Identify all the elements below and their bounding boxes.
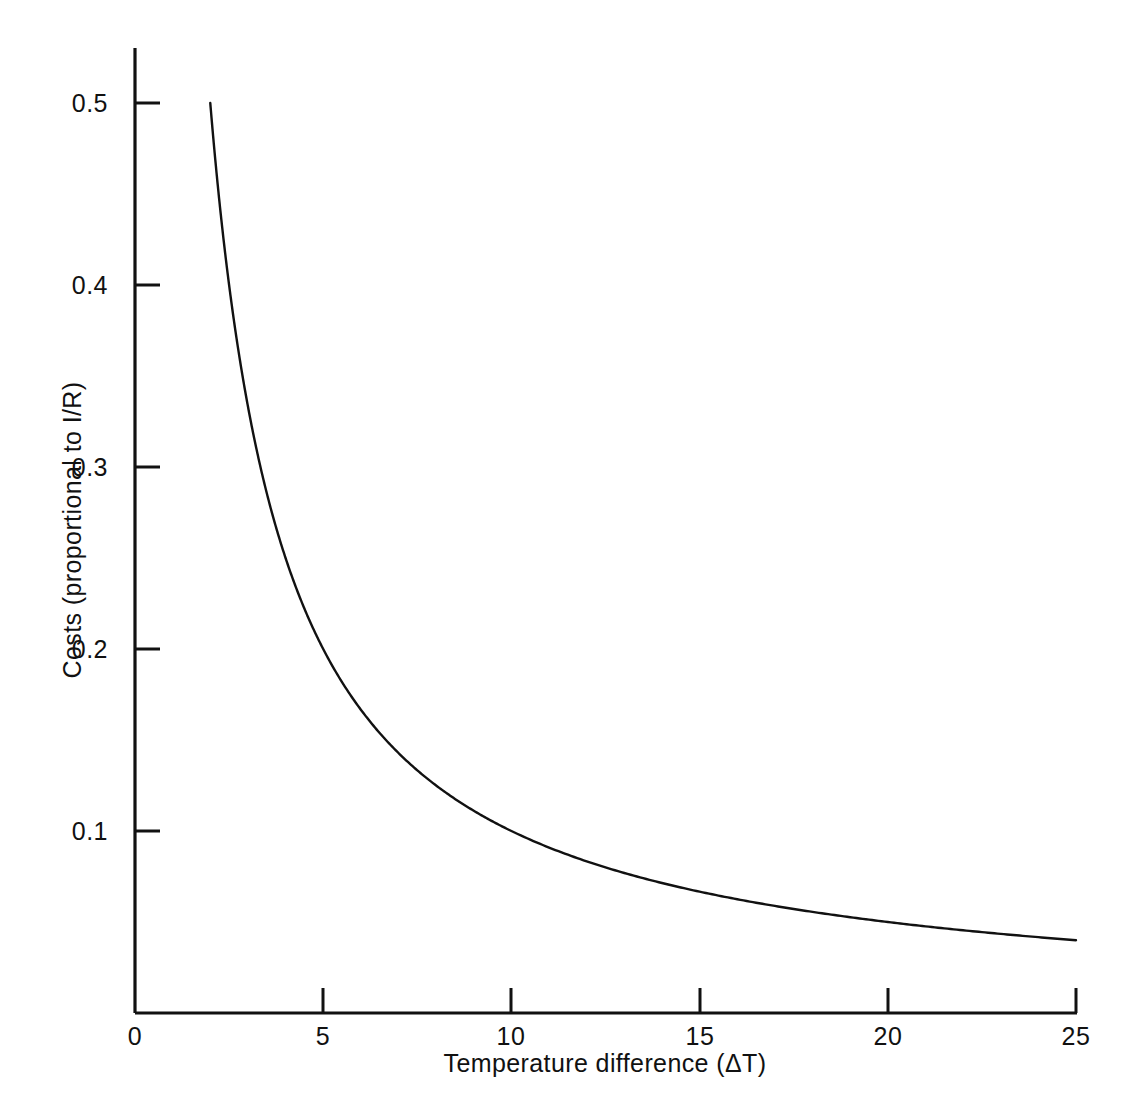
x-tick-label-25: 25 [1062,1022,1091,1051]
cost-curve [210,103,1076,940]
x-axis-ticks [323,988,1076,1013]
y-axis-ticks [135,103,160,831]
x-axis-title: Temperature difference (ΔT) [444,1049,767,1078]
y-tick-label-0.1: 0.1 [28,817,108,846]
x-tick-label-10: 10 [497,1022,526,1051]
chart-figure: 0.5 0.4 0.3 0.2 0.1 0 5 10 15 20 25 Temp… [0,0,1146,1118]
y-axis-title: Costs (proportional to I/R) [58,381,87,678]
x-tick-label-15: 15 [686,1022,715,1051]
y-tick-label-0.4: 0.4 [28,271,108,300]
x-tick-label-20: 20 [874,1022,903,1051]
y-tick-label-0.5: 0.5 [28,89,108,118]
x-tick-label-0: 0 [128,1022,142,1051]
plot-area [0,0,1146,1118]
x-tick-label-5: 5 [316,1022,330,1051]
